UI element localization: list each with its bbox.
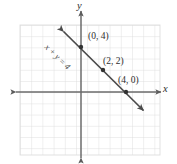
data-point-4-0 xyxy=(124,90,128,94)
point-label-0-4: (0, 4) xyxy=(88,31,109,41)
point-label-4-0: (4, 0) xyxy=(118,75,139,85)
coordinate-plane-figure: (0, 4) (2, 2) (4, 0) x + y = 4 y x xyxy=(0,0,177,164)
data-point-2-2 xyxy=(101,68,105,72)
x-axis-label: x xyxy=(163,83,168,94)
data-point-0-4 xyxy=(79,45,83,49)
grid-background xyxy=(20,25,160,155)
y-axis-label: y xyxy=(77,0,82,11)
graph-canvas xyxy=(0,0,177,164)
point-label-2-2: (2, 2) xyxy=(103,56,124,66)
